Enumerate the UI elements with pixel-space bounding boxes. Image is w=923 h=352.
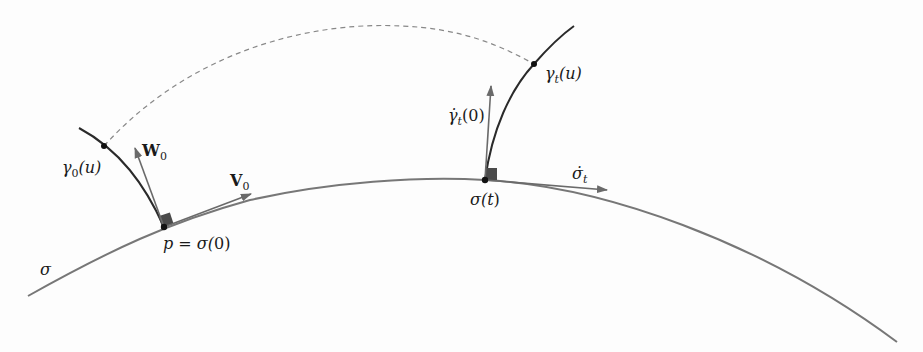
label-sigma-text: σ	[40, 260, 51, 279]
label-gammadot: γ̇	[448, 106, 458, 125]
label-gammadot-arg: (0)	[462, 106, 485, 125]
point-sigma-t	[482, 177, 488, 183]
point-p	[161, 224, 167, 230]
label-V0: V0	[230, 173, 249, 192]
label-V0-main: V	[230, 171, 242, 190]
diagram-graphics	[0, 0, 923, 352]
curve-sigma	[28, 179, 897, 342]
label-W0-main: W	[142, 141, 160, 160]
label-sigma-t-open: σ(	[470, 190, 487, 209]
label-gamma0-sub: 0	[72, 167, 79, 180]
label-gammat-u: γt(u)	[545, 66, 582, 85]
label-p-zero: 0	[214, 234, 224, 253]
dashed-arc	[104, 25, 534, 146]
right-angle-marker-sigma-t	[486, 168, 497, 180]
label-V0-sub: 0	[242, 180, 249, 193]
label-gammadot-t0: γ̇t(0)	[448, 108, 485, 127]
label-gamma0-arg: (u)	[79, 158, 102, 177]
label-gamma0: γ	[62, 158, 72, 177]
geodesic-variation-diagram: σ p = σ(0) σ(t) γ0(u) W0 V0 γt(u) γ̇t(0)…	[0, 0, 923, 352]
label-sigmadot-t: σ̇t	[572, 166, 587, 185]
label-gammat: γ	[545, 64, 555, 83]
point-gammat-u	[531, 61, 537, 67]
label-W0: W0	[142, 143, 167, 162]
label-p-close: )	[224, 234, 230, 253]
label-sigma: σ	[40, 262, 51, 278]
vector-V0	[164, 194, 251, 227]
vector-sigmadot-t	[485, 180, 607, 190]
label-sigmadot-sub: t	[583, 173, 587, 186]
label-p-eq: p = σ(	[163, 234, 214, 253]
label-gamma0-u: γ0(u)	[62, 160, 101, 179]
label-W0-sub: 0	[160, 150, 167, 163]
geodesic-gammat	[485, 26, 574, 180]
label-sigma-t: σ(t)	[470, 192, 500, 208]
point-gamma0-u	[101, 143, 107, 149]
label-sigma-t-close: )	[494, 190, 500, 209]
label-p-sigma0: p = σ(0)	[163, 236, 230, 252]
label-gammat-arg: (u)	[559, 64, 582, 83]
label-sigmadot: σ̇	[572, 164, 583, 183]
